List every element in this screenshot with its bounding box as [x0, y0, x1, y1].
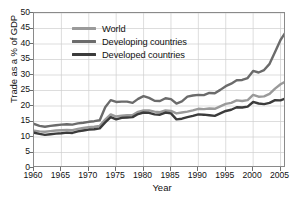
legend-label: Developed countries [102, 50, 185, 60]
y-axis-tick-label: 5 [6, 147, 30, 155]
x-axis-tick-label: 2005 [263, 170, 296, 180]
y-axis-tick-label: 15 [6, 116, 30, 124]
y-axis-tick-labels: 05101520253035404550 [3, 0, 30, 198]
legend-item: World [72, 22, 222, 35]
legend-swatch-icon [72, 53, 96, 57]
y-axis-tick-label: 10 [6, 132, 30, 140]
legend-swatch-icon [72, 40, 96, 43]
y-axis-tick-label: 35 [6, 54, 30, 62]
y-axis-tick-label: 40 [6, 39, 30, 47]
y-axis-tick-label: 45 [6, 23, 30, 31]
chart-legend: WorldDeveloping countriesDeveloped count… [72, 22, 222, 61]
legend-label: Developing countries [102, 37, 187, 47]
y-axis-tick-label: 20 [6, 101, 30, 109]
y-axis-tick-label: 30 [6, 70, 30, 78]
legend-swatch-icon [72, 27, 96, 30]
legend-label: World [102, 24, 126, 34]
y-axis-tick-label: 25 [6, 85, 30, 93]
y-axis-tick-label: 50 [6, 8, 30, 16]
legend-item: Developed countries [72, 48, 222, 61]
chart-figure: Trade as a % of GDP 05101520253035404550… [0, 0, 296, 198]
legend-item: Developing countries [72, 35, 222, 48]
x-axis-title: Year [32, 182, 292, 193]
